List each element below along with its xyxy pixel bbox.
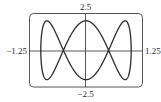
y-max-label: 2.5 <box>80 2 92 12</box>
y-min-label: −2.5 <box>77 89 94 99</box>
x-max-label: 1.25 <box>145 46 161 56</box>
lissajous-plot: 2.5 −2.5 −1.25 1.25 <box>0 0 161 102</box>
x-min-label: −1.25 <box>6 46 27 56</box>
curve-path <box>41 21 131 80</box>
plot-frame <box>30 14 143 88</box>
